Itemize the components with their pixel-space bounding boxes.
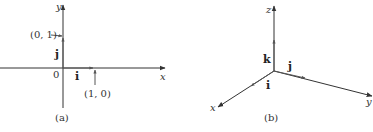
x-axis-label-a: x [160, 71, 166, 82]
vector-i-label-a: i [75, 70, 79, 83]
caption-a: (a) [55, 112, 69, 123]
point-0-1-label: (0, 1) [30, 29, 57, 40]
z-axis-label-b: z [265, 4, 272, 15]
point-1-0-label: (1, 0) [84, 88, 111, 99]
unit-vectors-diagram: y x 0 i j (0, 1) (1, 0) (a) z y x k j i … [0, 0, 373, 132]
origin-label: 0 [53, 69, 59, 80]
caption-b: (b) [264, 112, 278, 123]
vector-j-label-b: j [287, 60, 292, 73]
x-axis-label-b: x [210, 102, 216, 113]
panel-a: y x 0 i j (0, 1) (1, 0) (a) [0, 1, 166, 123]
vector-i-label-b: i [266, 79, 270, 92]
y-axis-label-b: y [365, 96, 372, 107]
panel-b: z y x k j i (b) [210, 4, 372, 123]
y-axis-label-a: y [55, 1, 62, 12]
vector-i-b [251, 71, 274, 86]
vector-j-label-a: j [54, 48, 59, 61]
vector-k-label-b: k [263, 53, 271, 66]
